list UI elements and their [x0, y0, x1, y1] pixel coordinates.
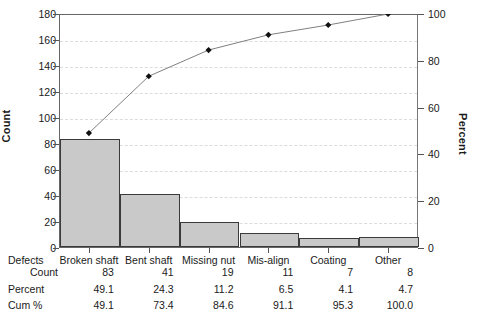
x-tickmark [149, 248, 150, 253]
x-tickmark [268, 248, 269, 253]
gridline [60, 93, 417, 94]
table-cell: 8 [358, 266, 413, 278]
y-tickmark-right [418, 248, 424, 249]
table-cell: 49.1 [59, 299, 114, 309]
y-tick-label-left: 100 [16, 113, 56, 124]
table-column-header: Coating [294, 254, 362, 266]
y-tick-label-right: 80 [428, 56, 468, 67]
table-row-label: Count [0, 266, 58, 278]
y-tick-label-right: 20 [428, 196, 468, 207]
y-tick-label-left: 60 [16, 165, 56, 176]
table-cell: 41 [119, 266, 174, 278]
table-column-header: Broken shaft [55, 254, 123, 266]
table-cell: 4.1 [298, 283, 353, 295]
pareto-chart: Count Percent 020406080100120140160180 0… [0, 0, 480, 309]
table-row-label: Percent [8, 283, 58, 295]
gridline [60, 67, 417, 68]
y-tick-label-left: 120 [16, 87, 56, 98]
table-cell: 100.0 [358, 299, 413, 309]
table-cell: 6.5 [239, 283, 294, 295]
table-cell: 4.7 [358, 283, 413, 295]
gridline [60, 119, 417, 120]
y-tick-label-left: 0 [16, 243, 56, 254]
table-column-header: Missing nut [175, 254, 243, 266]
x-tickmark [209, 248, 210, 253]
bar [180, 222, 240, 247]
x-tickmark [388, 248, 389, 253]
y-tickmark-right [418, 201, 424, 202]
table-cell: 49.1 [59, 283, 114, 295]
y-tick-label-right: 60 [428, 103, 468, 114]
table-cell: 24.3 [119, 283, 174, 295]
y-axis-title-count: Count [0, 96, 12, 156]
table-column-header: Bent shaft [115, 254, 183, 266]
y-tick-label-left: 160 [16, 35, 56, 46]
table-cell: 11.2 [179, 283, 234, 295]
table-cell: 95.3 [298, 299, 353, 309]
bar [240, 233, 300, 247]
x-tickmark [328, 248, 329, 253]
y-tick-label-right: 40 [428, 149, 468, 160]
table-cell: 91.1 [239, 299, 294, 309]
table-cell: 7 [298, 266, 353, 278]
table-cell: 83 [59, 266, 114, 278]
plot-area [59, 14, 418, 248]
table-row: Count8341191178 [0, 266, 480, 278]
table-cell: 11 [239, 266, 294, 278]
bar [359, 237, 419, 247]
y-tick-label-left: 140 [16, 61, 56, 72]
table-column-header: Other [354, 254, 422, 266]
y-tick-label-left: 20 [16, 217, 56, 228]
y-tick-label-right: 100 [428, 9, 468, 20]
bar [299, 238, 359, 247]
table-row-label: Defects [8, 254, 58, 266]
y-tick-label-left: 180 [16, 9, 56, 20]
y-tickmark-left [53, 248, 59, 249]
y-tick-label-left: 40 [16, 191, 56, 202]
table-row: Percent49.124.311.26.54.14.7 [0, 283, 480, 295]
table-row-label: Cum % [8, 299, 58, 309]
table-cell: 19 [179, 266, 234, 278]
y-tickmark-right [418, 14, 424, 15]
gridline [60, 41, 417, 42]
table-column-header: Mis-align [235, 254, 303, 266]
x-tickmark [89, 248, 90, 253]
table-cell: 73.4 [119, 299, 174, 309]
table-row: DefectsBroken shaftBent shaftMissing nut… [0, 254, 480, 266]
bar [120, 194, 180, 247]
data-table: DefectsBroken shaftBent shaftMissing nut… [0, 254, 480, 309]
y-tickmark-right [418, 154, 424, 155]
bar [60, 139, 120, 247]
y-tick-label-left: 80 [16, 139, 56, 150]
y-tickmark-right [418, 108, 424, 109]
y-tickmark-right [418, 61, 424, 62]
y-tick-label-right: 0 [428, 243, 468, 254]
table-cell: 84.6 [179, 299, 234, 309]
table-row: Cum %49.173.484.691.195.3100.0 [0, 299, 480, 309]
